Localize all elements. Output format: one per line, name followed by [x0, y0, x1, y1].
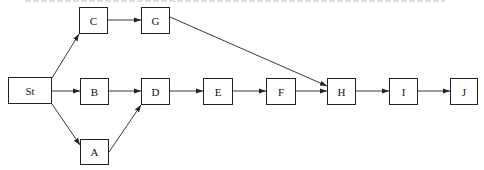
edge-g-to-h — [170, 17, 327, 86]
edge-st-to-c — [52, 34, 79, 78]
node-label: H — [338, 86, 346, 98]
node-label: St — [25, 85, 34, 97]
node-b: B — [80, 78, 109, 105]
edge-st-to-a — [52, 104, 80, 145]
node-label: E — [215, 86, 222, 98]
edge-a-to-d — [109, 105, 141, 152]
node-g: G — [141, 7, 170, 34]
node-label: C — [90, 15, 97, 27]
node-label: J — [462, 86, 466, 98]
node-label: A — [91, 146, 99, 158]
node-label: B — [91, 86, 98, 98]
node-label: G — [152, 15, 160, 27]
node-h: H — [327, 78, 356, 105]
node-label: I — [402, 86, 406, 98]
node-a: A — [80, 139, 109, 165]
node-label: D — [152, 86, 160, 98]
node-i: I — [389, 78, 418, 105]
node-label: F — [278, 86, 284, 98]
node-d: D — [141, 78, 170, 105]
node-f: F — [266, 78, 296, 105]
node-e: E — [203, 78, 233, 105]
node-c: C — [79, 7, 108, 34]
node-j: J — [450, 78, 478, 105]
node-st: St — [8, 77, 52, 104]
